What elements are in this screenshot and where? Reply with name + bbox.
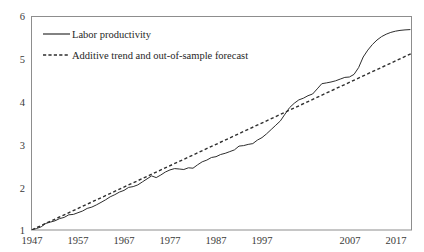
y-tick-label: 2 (20, 183, 25, 194)
x-tick-label: 1977 (160, 235, 181, 246)
chart-background (0, 0, 424, 252)
x-tick-label: 1967 (114, 235, 135, 246)
y-tick-label: 6 (20, 11, 25, 22)
legend-label-labor-productivity: Labor productivity (72, 29, 152, 40)
x-tick-label: 2017 (386, 235, 407, 246)
x-axis-tick-labels: 1947 1957 1967 1977 1987 1997 2007 2017 … (22, 235, 407, 246)
x-tick-label: 1947 (22, 235, 43, 246)
legend-label-additive-trend: Additive trend and out-of-sample forecas… (72, 50, 248, 61)
x-tick-label: 1997 (252, 235, 273, 246)
y-tick-label: 3 (20, 140, 25, 151)
y-tick-label: 5 (20, 54, 25, 65)
x-tick-label: 1987 (206, 235, 227, 246)
chart-container: 6 5 4 3 2 1 1947 1957 1967 1977 1987 199… (0, 0, 424, 252)
x-tick-label: 2007 (340, 235, 361, 246)
x-tick-label: 1957 (68, 235, 89, 246)
line-chart: 6 5 4 3 2 1 1947 1957 1967 1977 1987 199… (0, 0, 424, 252)
y-tick-label: 4 (20, 97, 26, 108)
